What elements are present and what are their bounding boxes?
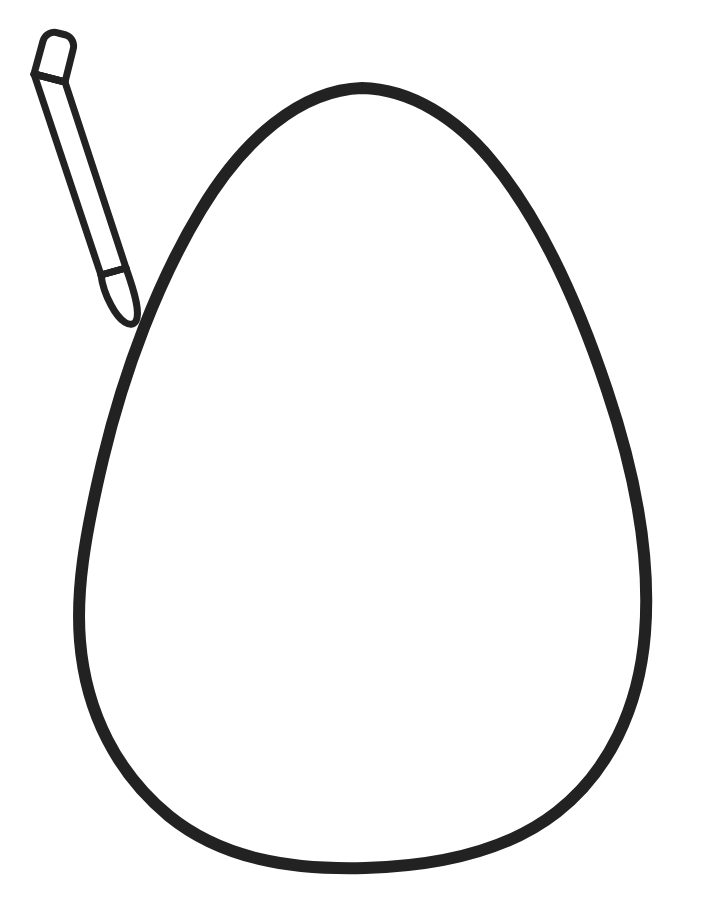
line-art-artboard [0, 0, 709, 901]
coloring-page-canvas [0, 0, 709, 901]
